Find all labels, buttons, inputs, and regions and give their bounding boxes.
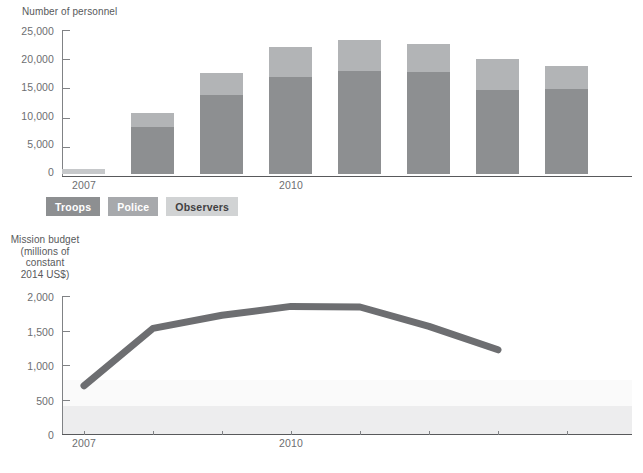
personnel-ytick-15000: 15,000 <box>2 81 54 93</box>
personnel-ytick-0: 0 <box>2 166 54 178</box>
personnel-ytick-5000: 5,000 <box>2 138 54 150</box>
legend-label-observers: Observers <box>175 201 229 213</box>
bar-2008 <box>131 113 174 174</box>
bar-2010-troops <box>269 77 312 175</box>
personnel-x-axis <box>62 176 632 177</box>
budget-ytick-1000: 1,000 <box>2 360 54 372</box>
bar-2012 <box>407 44 450 174</box>
bar-2009 <box>200 73 243 174</box>
bar-2008-police <box>131 113 174 126</box>
bar-2011 <box>338 40 381 174</box>
personnel-ytick-10000: 10,000 <box>2 110 54 122</box>
bar-2008-troops <box>131 127 174 174</box>
chart-budget: Mission budget (millions of constant 201… <box>0 228 643 473</box>
bar-2014-police <box>545 66 588 89</box>
legend-label-troops: Troops <box>55 201 91 213</box>
bar-2010 <box>269 47 312 174</box>
figure-root: Number of personnel 25,000 20,000 15,000… <box>0 0 643 473</box>
budget-ytick-2000: 2,000 <box>2 291 54 303</box>
personnel-plot-area <box>62 28 632 174</box>
budget-xtick-2007: 2007 <box>53 437 115 449</box>
bar-2009-police <box>200 73 243 95</box>
bar-2012-troops <box>407 72 450 174</box>
legend-label-police: Police <box>117 201 149 213</box>
bar-2010-police <box>269 47 312 77</box>
budget-x-axis <box>62 434 632 435</box>
bar-2007 <box>62 169 105 174</box>
legend-item-troops[interactable]: Troops <box>46 197 100 216</box>
bar-2014-troops <box>545 89 588 174</box>
bar-2011-police <box>338 40 381 72</box>
budget-y-axis-title: Mission budget (millions of constant 201… <box>10 234 80 280</box>
personnel-y-axis-title: Number of personnel <box>22 6 117 18</box>
bar-2014 <box>545 66 588 174</box>
personnel-ytick-20000: 20,000 <box>2 53 54 65</box>
budget-ytick-1500: 1,500 <box>2 326 54 338</box>
bar-2012-police <box>407 44 450 73</box>
legend-item-observers[interactable]: Observers <box>166 197 238 216</box>
bar-2013-police <box>476 59 519 90</box>
budget-line-series <box>84 306 498 385</box>
personnel-legend: Troops Police Observers <box>46 197 238 216</box>
legend-item-police[interactable]: Police <box>108 197 158 216</box>
budget-ytick-500: 500 <box>2 395 54 407</box>
chart-personnel: Number of personnel 25,000 20,000 15,000… <box>0 0 643 228</box>
personnel-ytick-25000: 25,000 <box>2 25 54 37</box>
bar-2009-troops <box>200 95 243 174</box>
budget-ytick-0: 0 <box>2 429 54 441</box>
personnel-xtick-2010: 2010 <box>260 179 322 191</box>
bar-2013 <box>476 59 519 174</box>
budget-xtick-2010: 2010 <box>260 437 322 449</box>
bar-2007-observers <box>62 169 105 174</box>
budget-line-plot <box>62 296 632 434</box>
bar-2013-troops <box>476 90 519 174</box>
bar-2011-troops <box>338 71 381 174</box>
personnel-xtick-2007: 2007 <box>53 179 115 191</box>
